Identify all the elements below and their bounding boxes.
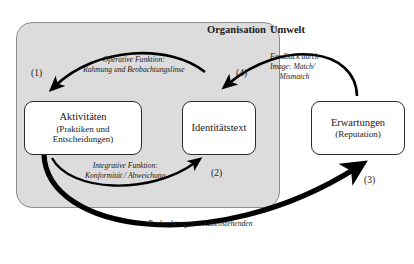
annotation-feedback-line1: Feedback durch (270, 52, 319, 62)
annotation-integrative-line2: Konformität / Abweichung (85, 171, 165, 181)
annotation-integrative-function: Integrative Funktion: Konformität / Abwe… (85, 161, 165, 181)
annotation-integrative-line1: Integrative Funktion: (85, 161, 165, 171)
node-erwartungen-title: Erwartungen (331, 117, 385, 129)
node-aktivitaeten-subtitle-line2: Entscheidungen) (53, 134, 113, 144)
umwelt-label: Umwelt (270, 24, 305, 35)
annotation-external-observation: Beobachtung von Außenstehenden (148, 219, 252, 229)
annotation-feedback-line2: Image: Match/ (270, 62, 319, 72)
annotation-feedback-line3: Mismatch (270, 72, 319, 82)
node-aktivitaeten: Aktivitäten (Praktiken und Entscheidunge… (24, 101, 142, 155)
node-aktivitaeten-subtitle-line1: (Praktiken und (56, 124, 109, 134)
annotation-operative-line1: Operative Funktion: (83, 55, 185, 65)
node-identitaetstext: Identitätstext (182, 101, 256, 155)
marker-3: (3) (364, 175, 375, 185)
node-aktivitaeten-title: Aktivitäten (59, 111, 106, 123)
annotation-feedback-image: Feedback durch Image: Match/ Mismatch (270, 52, 319, 82)
diagram-canvas: Organisation Umwelt Aktivitäten (Praktik… (0, 0, 414, 264)
marker-1: (1) (31, 68, 42, 78)
node-identitaetstext-title: Identitätstext (192, 122, 247, 134)
node-erwartungen: Erwartungen (Reputation) (311, 101, 405, 155)
organisation-label: Organisation (207, 24, 266, 35)
node-erwartungen-subtitle: (Reputation) (335, 129, 381, 139)
marker-4: (4) (236, 68, 247, 78)
annotation-operative-line2: Rahmung und Beobachtungslinse (83, 65, 185, 75)
annotation-operative-function: Operative Funktion: Rahmung und Beobacht… (83, 55, 185, 75)
marker-2: (2) (211, 168, 222, 178)
